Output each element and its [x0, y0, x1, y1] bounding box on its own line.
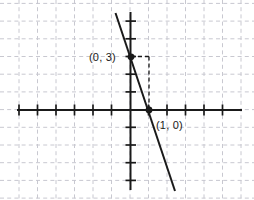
grid-lines: [0, 0, 254, 200]
label-y-intercept: (0, 3): [89, 51, 116, 63]
graph-canvas: [0, 0, 254, 200]
point-y-intercept: [128, 53, 135, 60]
label-x-intercept: (1, 0): [156, 119, 183, 131]
function-line: [116, 13, 176, 191]
coordinate-plane-figure: (0, 3) (1, 0): [0, 0, 254, 200]
point-x-intercept: [146, 107, 153, 114]
